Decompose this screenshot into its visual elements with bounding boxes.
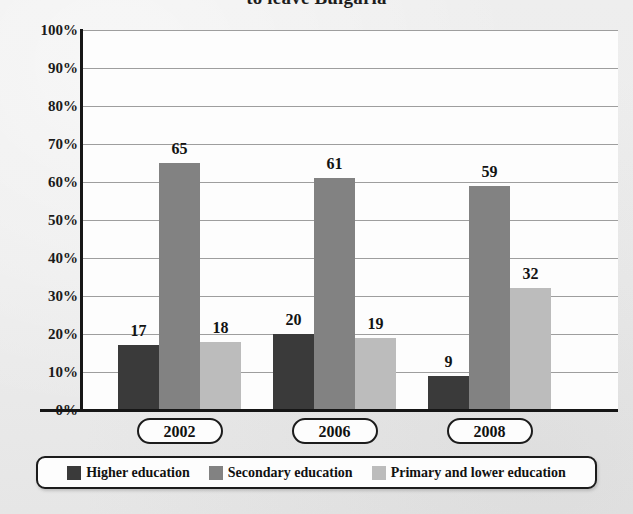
x-axis-line (40, 409, 618, 412)
legend-swatch-icon (372, 466, 386, 480)
y-axis-tick-10: 10% (6, 364, 78, 381)
y-axis-tick-60: 60% (6, 174, 78, 191)
y-axis-tick-labels: 100%90%80%70%60%50%40%30%20%10%0% (0, 0, 78, 514)
gridline-70 (82, 144, 618, 145)
legend-label: Secondary education (228, 465, 353, 481)
gridline-100 (82, 30, 618, 31)
bar-2008-higher-education (428, 376, 469, 410)
bar-2002-secondary-education (159, 163, 200, 410)
bar-value-label: 61 (327, 155, 343, 173)
legend-item-2[interactable]: Primary and lower education (372, 465, 566, 481)
bar-2008-primary-and-lower-education (510, 288, 551, 410)
y-axis-tick-70: 70% (6, 136, 78, 153)
bar-2002-primary-and-lower-education (200, 342, 241, 410)
bar-value-label: 20 (286, 311, 302, 329)
bar-2006-higher-education (273, 334, 314, 410)
bar-2006-primary-and-lower-education (355, 338, 396, 410)
x-axis-label-2002: 2002 (137, 418, 223, 444)
legend-item-1[interactable]: Secondary education (209, 465, 353, 481)
bar-2002-higher-education (118, 345, 159, 410)
x-axis-label-2006: 2006 (292, 418, 378, 444)
bar-value-label: 19 (368, 315, 384, 333)
bar-value-label: 18 (213, 319, 229, 337)
chart-legend: Higher educationSecondary educationPrima… (36, 456, 597, 489)
legend-swatch-icon (67, 466, 81, 480)
plot-area (82, 30, 618, 410)
gridline-90 (82, 68, 618, 69)
y-axis-line (80, 29, 83, 412)
y-axis-tick-100: 100% (6, 22, 78, 39)
legend-label: Higher education (86, 465, 190, 481)
bar-value-label: 9 (445, 353, 453, 371)
x-axis-label-2008: 2008 (447, 418, 533, 444)
legend-item-0[interactable]: Higher education (67, 465, 190, 481)
y-axis-tick-80: 80% (6, 98, 78, 115)
bar-2008-secondary-education (469, 186, 510, 410)
y-axis-tick-40: 40% (6, 250, 78, 267)
bar-2006-secondary-education (314, 178, 355, 410)
legend-label: Primary and lower education (391, 465, 566, 481)
bar-value-label: 59 (482, 163, 498, 181)
bar-value-label: 65 (172, 140, 188, 158)
gridline-80 (82, 106, 618, 107)
legend-swatch-icon (209, 466, 223, 480)
y-axis-tick-30: 30% (6, 288, 78, 305)
y-axis-tick-90: 90% (6, 60, 78, 77)
y-axis-tick-50: 50% (6, 212, 78, 229)
y-axis-tick-20: 20% (6, 326, 78, 343)
bar-value-label: 17 (131, 322, 147, 340)
bar-value-label: 32 (523, 265, 539, 283)
chart-title: to leave Bulgaria (0, 0, 633, 9)
